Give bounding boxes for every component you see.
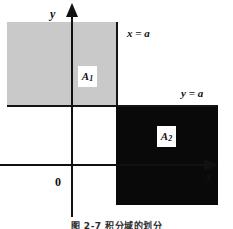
boundary-line-x-equals-a: [116, 22, 118, 106]
region-a1-letter: A: [82, 71, 89, 82]
figure-container: y x 0 x = a y = a A1 A2 图 2-7 积分域的划分: [0, 0, 233, 229]
region-a2-fill: [116, 106, 218, 205]
label-x-equals-a: x = a: [127, 28, 150, 39]
boundary-line-y-equals-a: [7, 105, 218, 107]
figure-caption: 图 2-7 积分域的划分: [0, 219, 233, 229]
y-axis-label: y: [50, 8, 55, 20]
x-axis-line: [0, 164, 208, 166]
label-y-equals-a: y = a: [181, 88, 203, 99]
region-a1-subscript: 1: [89, 75, 93, 83]
region-a1-label: A1: [78, 66, 97, 87]
region-a2-subscript: 2: [168, 135, 172, 143]
y-axis-line: [71, 12, 73, 217]
region-a2-label: A2: [157, 126, 176, 147]
y-axis-arrowhead-icon: [66, 3, 78, 17]
region-a1-fill: [7, 22, 116, 106]
origin-label: 0: [55, 176, 61, 188]
x-axis-label: x: [206, 171, 212, 183]
